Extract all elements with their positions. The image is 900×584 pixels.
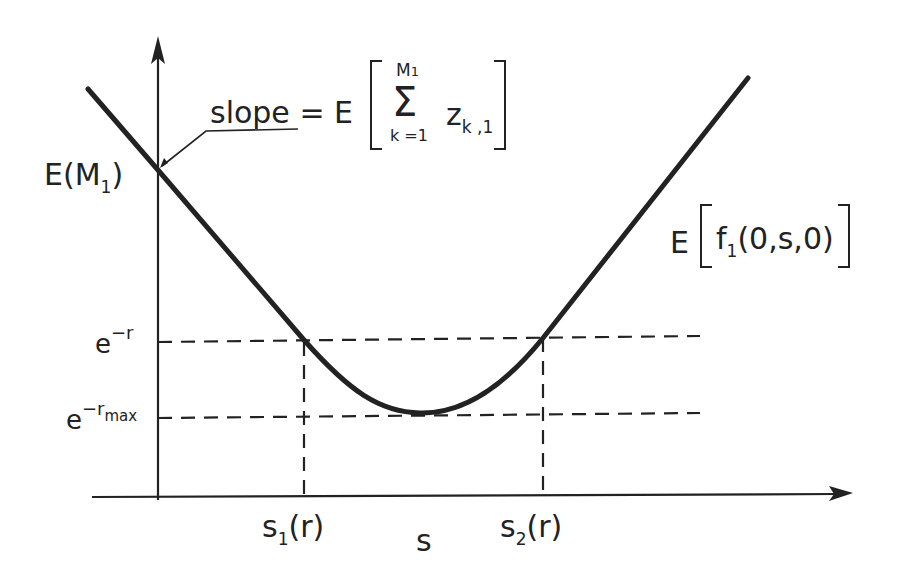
sum-lower-limit: k =1 xyxy=(390,128,428,144)
slope-right-bracket xyxy=(494,60,506,150)
func-f-sub: 1 xyxy=(727,241,738,261)
curve-label-func: f1(0,s,0) xyxy=(716,224,834,260)
level-emax-base: e xyxy=(66,405,82,435)
s1-var: s xyxy=(262,509,278,544)
label-open-paren: ( xyxy=(63,157,75,192)
s2-var: s xyxy=(500,509,516,544)
level-e-r-line xyxy=(158,336,700,342)
level-label-e-r: e−r xyxy=(95,324,133,357)
level-emax-exp-sub: max xyxy=(104,407,137,425)
func-args: (0,s,0) xyxy=(737,221,833,256)
equals-sign: = xyxy=(299,95,324,130)
sum-term: zk ,1 xyxy=(446,100,493,136)
curve-label-e: E xyxy=(670,228,689,258)
func-f: f xyxy=(716,221,727,256)
slope-left-bracket xyxy=(370,60,382,150)
sum-upper-m: M xyxy=(396,60,411,80)
y-intercept-label: E(M1) xyxy=(44,160,123,196)
s1-arg: (r) xyxy=(288,509,324,544)
label-m-sub: 1 xyxy=(101,177,112,197)
term-z: z xyxy=(446,97,462,132)
expectation-e: E xyxy=(334,95,353,130)
x-label-s1: s1(r) xyxy=(262,512,324,548)
level-e-base: e xyxy=(95,329,111,359)
label-close-paren: ) xyxy=(111,157,123,192)
slope-leader-line xyxy=(162,129,298,166)
level-emax-exp: −r xyxy=(82,398,104,419)
level-label-e-rmax: e−rmax xyxy=(66,400,137,433)
slope-word: slope = E xyxy=(210,98,353,128)
sum-upper-limit: M1 xyxy=(396,62,419,79)
s2-sub: 2 xyxy=(516,529,527,549)
label-e: E xyxy=(44,157,63,192)
sum-symbol: Σ xyxy=(392,82,417,122)
s2-arg: (r) xyxy=(526,509,562,544)
x-axis-label: s xyxy=(416,526,432,556)
slope-text: slope xyxy=(210,95,290,130)
curve-label-right-bracket xyxy=(838,204,850,268)
x-label-s2: s2(r) xyxy=(500,512,562,548)
curve-label-left-bracket xyxy=(700,204,712,268)
sum-upper-sub: 1 xyxy=(411,64,419,79)
label-m: M xyxy=(75,157,101,192)
x-axis xyxy=(92,494,838,497)
level-e-exp: −r xyxy=(111,322,133,343)
s1-sub: 1 xyxy=(278,529,289,549)
term-z-sub: k ,1 xyxy=(462,117,493,137)
slope-leader-arrow-icon xyxy=(160,158,168,168)
diagram-canvas xyxy=(0,0,900,584)
